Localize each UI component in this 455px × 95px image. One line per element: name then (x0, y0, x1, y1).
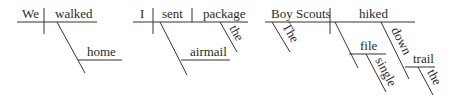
preposition-word: down (388, 25, 415, 58)
subject-word: Boy Scouts (271, 6, 331, 21)
adverb-word: home (87, 44, 116, 59)
adverbial-slant (335, 22, 358, 68)
diagram-3: Boy Scouts hiked The file single down tr… (265, 6, 445, 95)
object-word: package (203, 6, 246, 21)
verb-word: hiked (359, 6, 388, 21)
modifier-slant (57, 22, 85, 73)
subject-word: We (22, 6, 39, 21)
diagram-1: We walked home (17, 6, 122, 73)
verb-word: sent (162, 6, 183, 21)
verb-modifier-slant (160, 22, 187, 75)
sentence-diagrams: We walked home I sent package the airmai… (0, 0, 455, 95)
subject-word: I (140, 6, 144, 21)
adverbial-modifier-word: single (372, 54, 400, 89)
object-modifier-word: the (226, 22, 247, 43)
diagram-2: I sent package the airmail (133, 6, 248, 75)
verb-word: walked (55, 6, 93, 21)
adverbial-object-word: file (360, 38, 378, 53)
verb-modifier-word: airmail (190, 44, 227, 59)
subject-modifier-word: The (279, 20, 302, 45)
prep-object-word: trail (413, 51, 434, 66)
